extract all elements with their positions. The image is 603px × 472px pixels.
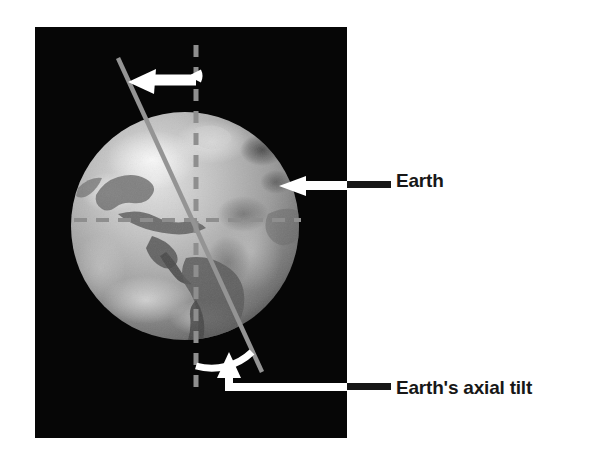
callout-earth-leader-line [347,181,391,188]
callout-earths-axial-tilt-label: Earth's axial tilt [396,377,532,399]
callout-tilt-white-shaft [225,383,347,391]
callout-earth-label: Earth [396,170,444,192]
callout-earth-white-shaft [303,181,347,190]
figure-canvas [0,0,603,472]
earth-axial-tilt-figure: Earth Earth's axial tilt [0,0,603,472]
callout-tilt-leader-line [347,383,391,390]
